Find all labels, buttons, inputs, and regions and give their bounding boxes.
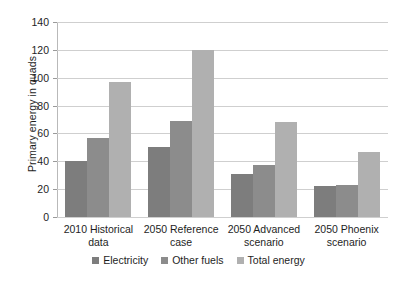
bar: [231, 174, 253, 217]
bar: [275, 122, 297, 217]
x-axis-category-label: 2050 Advancedscenario: [217, 223, 312, 248]
bar: [192, 50, 214, 217]
legend-label: Total energy: [248, 254, 305, 266]
gridline: [57, 22, 388, 23]
y-axis-tick-label: 20: [37, 184, 49, 195]
gridline: [57, 78, 388, 79]
y-axis-tick-label: 0: [43, 212, 49, 223]
legend-swatch-icon: [237, 257, 244, 264]
bar: [109, 82, 131, 217]
y-axis-tick-label: 100: [31, 72, 49, 83]
bar: [170, 121, 192, 217]
y-axis-tick-label: 120: [31, 45, 49, 56]
bar: [358, 152, 380, 217]
legend-swatch-icon: [161, 257, 168, 264]
y-axis-tick: [53, 50, 57, 51]
y-axis-tick: [53, 217, 57, 218]
y-axis-tick-label: 140: [31, 17, 49, 28]
y-axis-tick: [53, 78, 57, 79]
y-axis-tick: [53, 22, 57, 23]
chart-legend: ElectricityOther fuelsTotal energy: [0, 254, 397, 266]
x-axis-category-label: 2050 Referencecase: [134, 223, 229, 248]
gridline: [57, 133, 388, 134]
bar-chart: Primary energy in quads 0204060801001201…: [0, 0, 397, 282]
y-axis-tick: [53, 161, 57, 162]
bar: [336, 185, 358, 217]
bar: [87, 138, 109, 217]
bar: [314, 186, 336, 217]
gridline: [57, 106, 388, 107]
y-axis-tick-label: 60: [37, 128, 49, 139]
y-axis-tick-label: 40: [37, 156, 49, 167]
bar: [148, 147, 170, 217]
gridline: [57, 217, 388, 218]
legend-item: Other fuels: [161, 254, 223, 266]
y-axis-tick: [53, 106, 57, 107]
legend-item: Total energy: [237, 254, 305, 266]
y-axis-tick: [53, 133, 57, 134]
bar: [65, 161, 87, 217]
plot-area: 020406080100120140: [57, 22, 388, 218]
legend-label: Other fuels: [172, 254, 223, 266]
legend-label: Electricity: [103, 254, 148, 266]
x-axis-category-label: 2050 Phoenixscenario: [299, 223, 394, 248]
gridline: [57, 50, 388, 51]
bar: [253, 165, 275, 217]
y-axis-tick: [53, 189, 57, 190]
legend-swatch-icon: [92, 257, 99, 264]
y-axis-tick-label: 80: [37, 100, 49, 111]
legend-item: Electricity: [92, 254, 148, 266]
x-axis-category-label: 2010 Historicaldata: [51, 223, 146, 248]
